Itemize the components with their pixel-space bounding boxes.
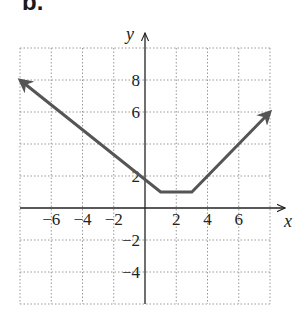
x-tick-label: 2 [172, 210, 181, 229]
y-axis-label: y [124, 24, 134, 44]
x-tick-label: −4 [73, 210, 92, 229]
y-tick-label: −2 [122, 231, 140, 250]
x-tick-label: 4 [203, 210, 212, 229]
x-axis-label: x [283, 211, 292, 231]
x-tick-label: 6 [235, 210, 244, 229]
y-tick-label: −4 [122, 263, 141, 282]
y-tick-label: 6 [132, 103, 141, 122]
x-tick-label: −6 [42, 210, 60, 229]
y-tick-label: 8 [132, 71, 141, 90]
chart: xy−6−4−2246862−2−4 [0, 0, 303, 324]
x-tick-label: −2 [105, 210, 123, 229]
